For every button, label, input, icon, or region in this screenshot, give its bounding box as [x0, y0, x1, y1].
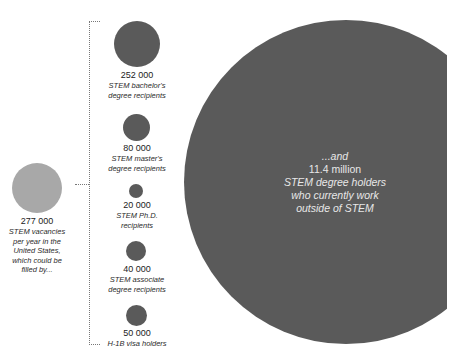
outside-stem-label: ...and 11.4 million STEM degree holders …	[260, 150, 410, 215]
